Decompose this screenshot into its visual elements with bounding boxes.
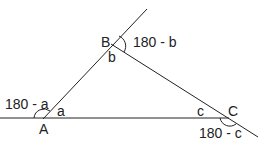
vertex-label-b: B [101, 34, 110, 50]
line-b-c-extended [111, 44, 258, 137]
exterior-angle-a: 180 - a [5, 96, 49, 112]
exterior-angle-c: 180 - c [199, 125, 242, 141]
vertex-label-a: A [39, 121, 49, 137]
vertex-label-c: C [228, 103, 238, 119]
triangle-exterior-angles-diagram: B A C b a c 180 - b 180 - a 180 - c [0, 0, 264, 148]
interior-angle-c: c [197, 103, 204, 119]
exterior-angle-b: 180 - b [133, 34, 177, 50]
interior-angle-a: a [57, 103, 65, 119]
interior-angle-b: b [108, 49, 116, 65]
